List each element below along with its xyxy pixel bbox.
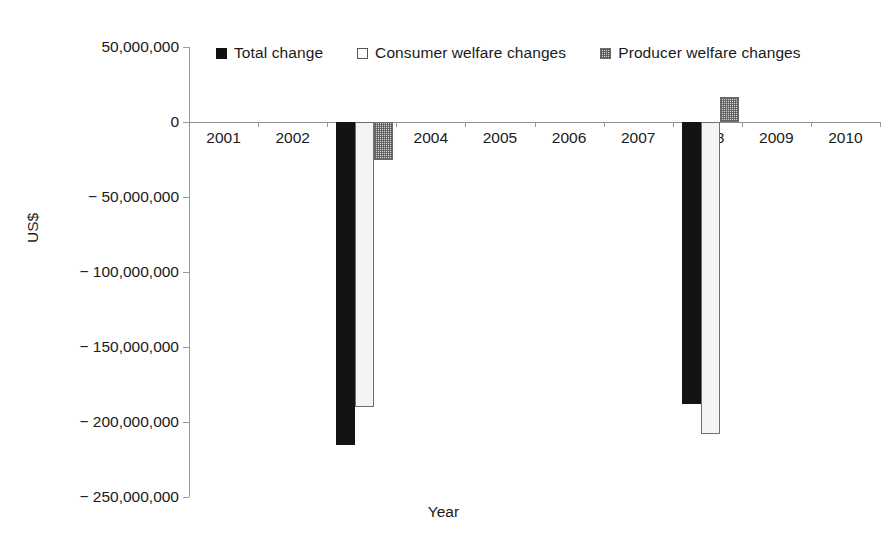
y-axis-tick-mark xyxy=(183,422,189,423)
y-axis-title: US$ xyxy=(24,213,42,243)
x-axis-tick-label: 2009 xyxy=(759,129,793,147)
x-axis-tick-mark xyxy=(742,122,743,127)
x-axis-tick-mark xyxy=(604,122,605,127)
x-axis-tick-mark xyxy=(465,122,466,127)
x-axis-tick-label: 2004 xyxy=(414,129,448,147)
x-axis-tick-mark xyxy=(811,122,812,127)
y-axis-tick-mark xyxy=(183,272,189,273)
y-axis-tick-label: 50,000,000 xyxy=(101,38,179,56)
x-axis-tick-mark xyxy=(258,122,259,127)
bar-total-change-2008 xyxy=(682,122,701,404)
x-axis-tick-label: 2002 xyxy=(275,129,309,147)
x-axis-tick-mark xyxy=(673,122,674,127)
x-axis-tick-mark xyxy=(880,122,881,127)
y-axis-tick-label: − 100,000,000 xyxy=(79,263,179,281)
x-axis-tick-mark xyxy=(535,122,536,127)
y-axis-tick-mark xyxy=(183,347,189,348)
x-axis-tick-label: 2006 xyxy=(552,129,586,147)
bar-consumer-welfare-changes-2008 xyxy=(701,122,720,434)
x-axis-tick-mark xyxy=(189,122,190,127)
plot-area: 50,000,0000− 50,000,000− 100,000,000− 15… xyxy=(189,47,880,497)
y-axis-tick-label: − 200,000,000 xyxy=(79,413,179,431)
x-axis-tick-label: 2005 xyxy=(483,129,517,147)
y-axis-tick-mark xyxy=(183,497,189,498)
y-axis-tick-mark xyxy=(183,197,189,198)
bar-producer-welfare-changes-2003 xyxy=(374,122,393,160)
x-axis-tick-mark xyxy=(396,122,397,127)
x-axis-tick-label: 2001 xyxy=(206,129,240,147)
y-axis-tick-label: − 50,000,000 xyxy=(88,188,179,206)
bar-producer-welfare-changes-2008 xyxy=(720,97,739,123)
x-axis-tick-label: 2010 xyxy=(828,129,862,147)
bar-chart: Total change Consumer welfare changes Pr… xyxy=(0,0,887,541)
x-axis-tick-mark xyxy=(327,122,328,127)
y-axis-tick-label: − 150,000,000 xyxy=(79,338,179,356)
x-axis-tick-label: 2007 xyxy=(621,129,655,147)
bar-consumer-welfare-changes-2003 xyxy=(355,122,374,407)
bar-total-change-2003 xyxy=(336,122,355,445)
y-axis-line xyxy=(189,47,190,497)
y-axis-tick-mark xyxy=(183,47,189,48)
y-axis-tick-label: − 250,000,000 xyxy=(79,488,179,506)
y-axis-tick-label: 0 xyxy=(170,113,179,131)
